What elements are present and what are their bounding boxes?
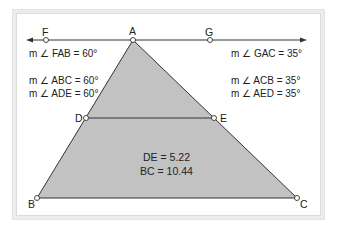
point-e[interactable] <box>212 116 217 121</box>
angle-abc: m ∠ ABC = 60° <box>29 75 98 86</box>
point-f[interactable] <box>44 38 49 43</box>
measure-de: DE = 5.22 <box>143 151 190 163</box>
label-g: G <box>205 26 213 38</box>
point-a[interactable] <box>131 38 136 43</box>
label-a: A <box>129 25 136 37</box>
arrow-right-icon <box>300 38 307 43</box>
label-b: B <box>28 198 35 210</box>
point-b[interactable] <box>35 196 40 201</box>
label-f: F <box>42 26 48 38</box>
point-g[interactable] <box>208 38 213 43</box>
angle-gac: m ∠ GAC = 35° <box>231 48 302 59</box>
label-e: E <box>220 112 227 124</box>
angle-fab: m ∠ FAB = 60° <box>29 48 97 59</box>
label-c: C <box>300 198 308 210</box>
arrow-left-icon <box>26 38 33 43</box>
measure-bc: BC = 10.44 <box>140 165 193 177</box>
point-d[interactable] <box>84 116 89 121</box>
angle-aed: m ∠ AED = 35° <box>231 88 300 99</box>
point-c[interactable] <box>295 196 300 201</box>
angle-acb: m ∠ ACB = 35° <box>231 75 300 86</box>
geometry-canvas: F A G D E B C m ∠ FAB = 60° m ∠ ABC = 60… <box>0 0 338 235</box>
angle-ade: m ∠ ADE = 60° <box>29 88 98 99</box>
label-d: D <box>75 112 83 124</box>
